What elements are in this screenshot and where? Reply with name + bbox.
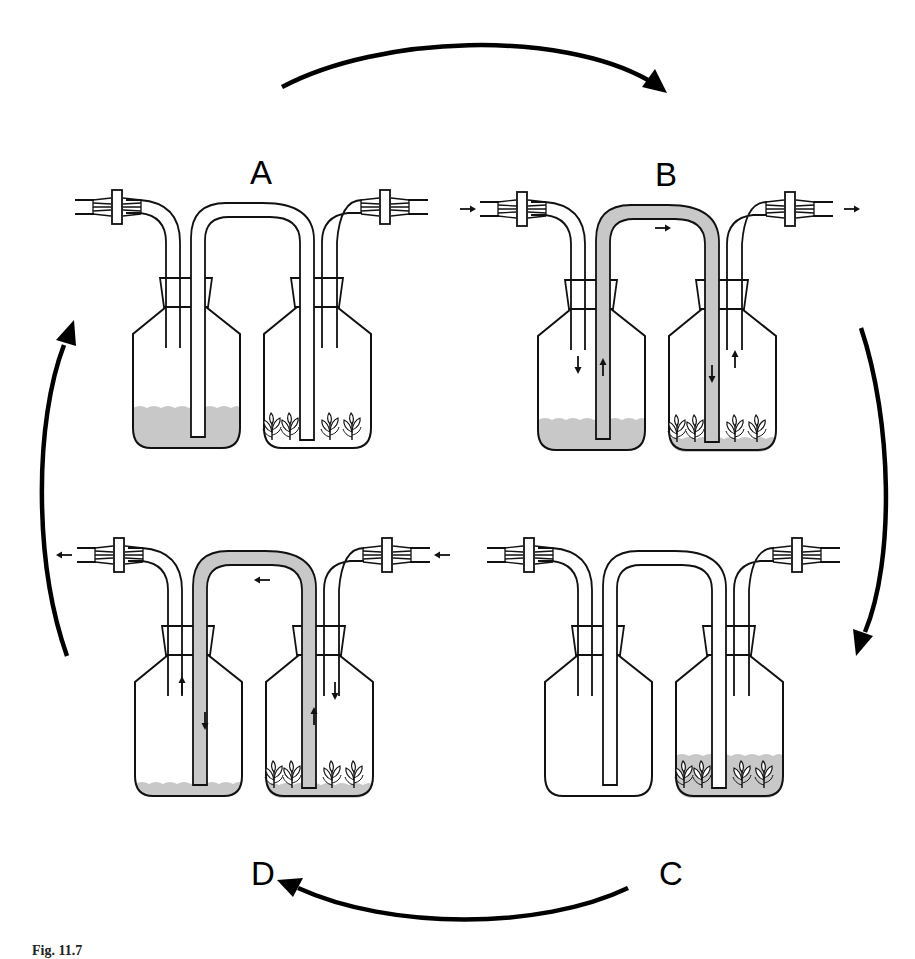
flow-arrow-inlet-right-icon	[460, 206, 476, 213]
panel-label-d: D	[251, 855, 275, 892]
right-air-tube	[734, 548, 774, 696]
right-air-filter-icon	[773, 538, 821, 572]
right-air-filter-icon	[363, 538, 411, 572]
left-reservoir-flask	[135, 655, 242, 796]
cycle-arrow-a-to-b	[282, 45, 667, 93]
connecting-tube	[191, 203, 314, 440]
panel-label-b: B	[655, 156, 677, 193]
left-port	[480, 202, 499, 216]
flow-arrow-tube-right-icon	[655, 225, 671, 232]
panel-b: B	[460, 156, 860, 452]
left-port	[487, 548, 506, 562]
left-flask-medium	[538, 418, 645, 450]
left-port	[77, 548, 96, 562]
flow-arrow-inlet-left-icon	[434, 552, 450, 559]
right-port	[408, 200, 428, 214]
right-air-tube	[324, 548, 364, 696]
left-air-filter-icon	[505, 538, 553, 572]
right-air-tube	[727, 202, 767, 350]
left-air-filter-icon	[498, 192, 546, 226]
flow-arrow-left-flask-up-icon	[179, 676, 186, 694]
right-air-filter-icon	[361, 190, 409, 224]
panel-d: D	[56, 538, 450, 892]
connecting-tube	[193, 551, 316, 788]
plantlet-icon	[343, 413, 361, 440]
flow-arrow-tube-left-icon	[254, 577, 270, 584]
plantlet-icon	[281, 413, 299, 440]
flow-arrow-left-flask-down-icon	[575, 356, 582, 374]
flow-arrow-outlet-left-icon	[56, 552, 72, 559]
left-air-filter-icon	[93, 190, 141, 224]
left-port	[75, 200, 94, 214]
right-stopper	[696, 280, 748, 309]
plantlet-icon	[321, 413, 339, 440]
flow-arrow-right-flask-up-icon	[732, 350, 739, 368]
panel-a: A	[75, 154, 428, 448]
cycle-arrow-d-to-a	[42, 320, 76, 656]
panel-label-a: A	[250, 154, 272, 191]
left-air-filter-icon	[95, 538, 143, 572]
right-stopper	[291, 278, 343, 307]
left-air-tube	[538, 548, 592, 696]
left-air-tube	[531, 202, 585, 350]
connecting-tube	[603, 551, 726, 788]
left-air-tube	[126, 200, 180, 348]
left-reservoir-flask	[545, 655, 652, 796]
right-port	[410, 548, 430, 562]
figure-caption: Fig. 11.7	[32, 943, 82, 959]
connecting-tube	[596, 205, 719, 442]
left-flask-medium	[133, 406, 240, 448]
flow-arrow-right-flask-down-icon	[332, 682, 339, 700]
flow-arrow-outlet-right-icon	[844, 206, 860, 213]
panel-c: C	[487, 538, 840, 892]
right-port	[813, 202, 833, 216]
left-air-tube	[128, 548, 182, 696]
left-flask-medium	[135, 782, 242, 796]
right-air-filter-icon	[766, 192, 814, 226]
cycle-arrow-c-to-d	[277, 878, 628, 920]
right-port	[820, 548, 840, 562]
caption-prefix: Fig. 11.7	[32, 943, 82, 958]
cycle-arrow-b-to-c	[853, 328, 886, 656]
panel-label-c: C	[659, 855, 683, 892]
right-stopper	[293, 626, 345, 655]
right-air-tube	[322, 200, 362, 348]
right-stopper	[703, 626, 755, 655]
